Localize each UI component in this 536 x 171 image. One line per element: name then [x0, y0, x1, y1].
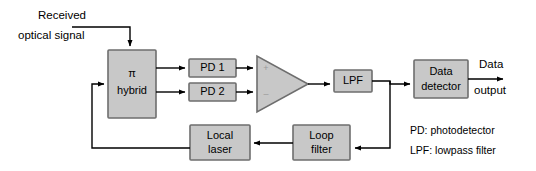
legend-line-pd: PD: photodetector	[410, 124, 495, 136]
legend-line-lpf: LPF: lowpass filter	[410, 144, 496, 156]
pd1-label: PD 1	[200, 61, 224, 73]
pd2-label: PD 2	[200, 85, 224, 97]
output-label-line1: Data	[479, 58, 503, 70]
amp-minus-sign: –	[263, 89, 268, 99]
input-label-line1: Received	[38, 9, 86, 21]
output-label-line2: output	[474, 84, 506, 96]
wire-lpf-to-data-detector	[372, 81, 410, 84]
input-label-line2: optical signal	[18, 29, 84, 41]
block-diagram-figure: π hybrid PD 1 PD 2 + – LPF Data detector	[0, 0, 536, 171]
data-detector-line1: Data	[429, 65, 453, 77]
data-detector-line2: detector	[421, 80, 461, 92]
amp-plus-sign: +	[263, 63, 268, 73]
loop-filter-line1: Loop	[309, 129, 333, 141]
loop-filter-line2: filter	[311, 143, 332, 155]
pi-hybrid-label: hybrid	[117, 84, 147, 96]
local-laser-line1: Local	[207, 129, 233, 141]
local-laser-line2: laser	[208, 143, 232, 155]
lpf-label: LPF	[343, 74, 363, 86]
pi-hybrid-symbol: π	[128, 67, 136, 79]
